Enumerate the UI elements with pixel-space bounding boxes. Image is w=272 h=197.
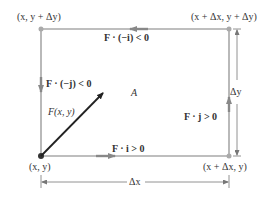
corner-dot-top-left [39, 27, 44, 32]
corner-dot-top-right [227, 27, 232, 32]
delta-x-label: Δx [129, 177, 140, 187]
corner-label-bottom-right: (x + Δx, y) [203, 162, 247, 172]
edge-label-bottom: F · i > 0 [112, 144, 145, 154]
corner-dot-bottom-right [227, 154, 232, 159]
corner-label-top-left: (x, y + Δy) [17, 12, 61, 22]
delta-y-label: Δy [230, 87, 241, 97]
vector-label: F(x, y) [48, 107, 75, 117]
corner-label-top-right: (x + Δx, y + Δy) [191, 12, 257, 22]
edge-label-top: F · (−i) < 0 [104, 33, 149, 43]
region-label: A [131, 88, 137, 98]
edge-label-left: F · (−j) < 0 [46, 79, 91, 89]
vector-f-arrow-icon [41, 93, 103, 156]
edge-label-right: F · j > 0 [184, 112, 217, 122]
corner-label-bottom-left: (x, y) [29, 162, 51, 172]
